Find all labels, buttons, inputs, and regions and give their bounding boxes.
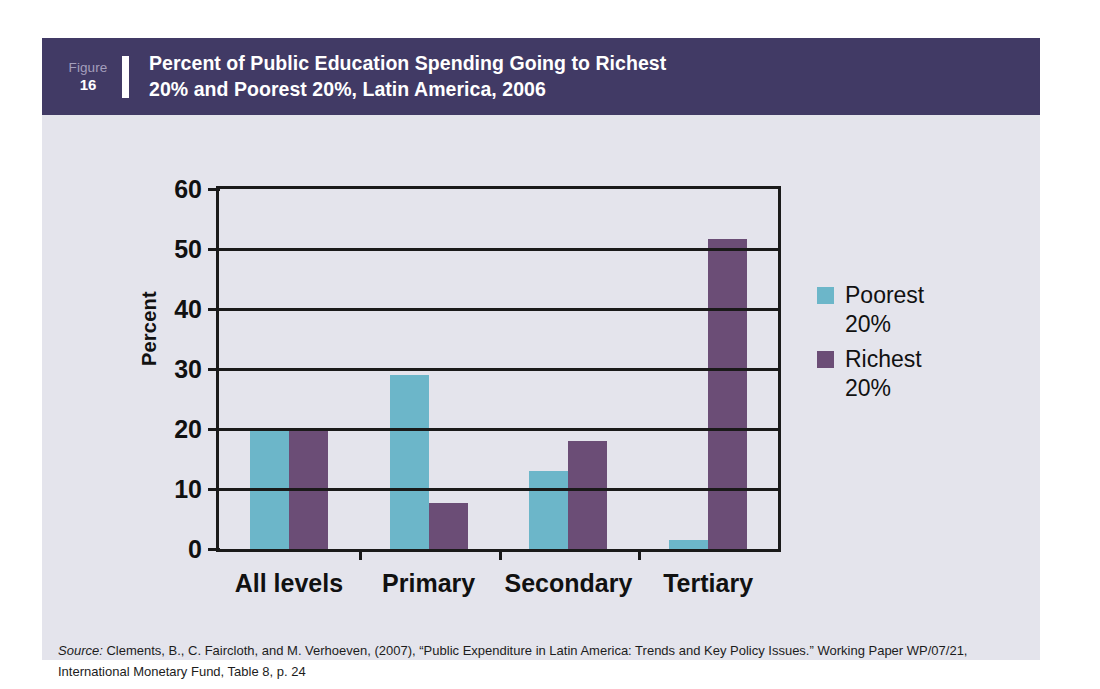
y-axis-tick [208,428,220,431]
bar-richest [429,503,468,549]
y-axis-tick [208,488,220,491]
x-axis-category-label: Primary [382,569,475,598]
x-axis-category-label: Secondary [504,569,632,598]
bar-poorest [390,375,429,549]
source-label: Source: [58,643,103,658]
y-axis-tick [208,368,220,371]
figure-title-line-2: 20% and Poorest 20%, Latin America, 2006 [149,77,666,103]
y-axis-tick [208,548,220,551]
figure-number-block: Figure 16 [42,60,120,94]
plot-area: 0102030405060 All levelsPrimarySecondary… [216,186,781,552]
figure-title: Percent of Public Education Spending Goi… [149,51,666,103]
figure-number-label: Figure [56,60,120,76]
y-axis-title: Percent [138,291,161,366]
legend-item-richest: Richest 20% [817,345,1007,404]
y-axis-tick-label: 20 [174,417,202,442]
legend-swatch-richest-icon [817,351,834,368]
y-axis-tick-label: 30 [174,357,202,382]
y-axis-tick [208,308,220,311]
legend-item-poorest: Poorest 20% [817,281,1007,340]
chart-region: Percent 0102030405060 All levelsPrimaryS… [42,115,1040,615]
figure-number-value: 16 [56,76,120,93]
x-axis-tick [359,549,362,560]
legend-swatch-poorest-icon [817,287,834,304]
y-axis-tick-label: 40 [174,297,202,322]
bar-poorest [669,540,708,549]
x-axis-tick [638,549,641,560]
x-axis-category-label: All levels [235,569,343,598]
gridline [219,248,778,251]
gridline [219,488,778,491]
x-axis-category-label: Tertiary [663,569,753,598]
bar-richest [568,441,607,549]
header-divider [122,56,129,98]
y-axis-tick-label: 50 [174,237,202,262]
bar-richest [708,239,747,549]
figure-card: Figure 16 Percent of Public Education Sp… [42,38,1040,660]
figure-header: Figure 16 Percent of Public Education Sp… [42,38,1040,115]
x-axis-tick [499,549,502,560]
gridline [219,428,778,431]
legend-label-richest: Richest 20% [845,345,922,404]
legend-label-poorest: Poorest 20% [845,281,924,340]
gridline [219,368,778,371]
source-note: Source: Clements, B., C. Faircloth, and … [58,640,1018,682]
figure-title-line-1: Percent of Public Education Spending Goi… [149,51,666,77]
gridline [219,308,778,311]
y-axis-tick-label: 0 [188,537,202,562]
y-axis-tick [208,188,220,191]
y-axis-tick-label: 10 [174,477,202,502]
chart-legend: Poorest 20% Richest 20% [817,281,1007,409]
bar-poorest [529,471,568,549]
y-axis-tick-label: 60 [174,177,202,202]
source-text: Clements, B., C. Faircloth, and M. Verho… [58,643,967,679]
y-axis-tick [208,248,220,251]
